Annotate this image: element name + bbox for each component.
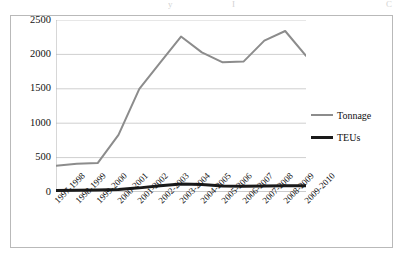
x-axis-labels: 1997-19981998-19991999-20002000-20012001…	[56, 192, 316, 252]
artifact-fragment-1: y	[168, 0, 179, 9]
line-swatch-black-icon	[311, 136, 333, 139]
legend-label-teus: TEUs	[337, 132, 360, 143]
axis-lines	[56, 20, 306, 192]
line-swatch-gray-icon	[311, 114, 333, 116]
artifact-fragment-2: I	[232, 0, 241, 9]
line-chart-svg	[56, 20, 306, 192]
y-tick-label-2500: 2500	[17, 15, 51, 26]
legend-label-tonnage: Tonnage	[337, 110, 371, 121]
y-tick-label-500: 500	[17, 152, 51, 163]
legend-entry-teus[interactable]: TEUs	[311, 126, 391, 148]
y-axis-labels: 05001000150020002500	[11, 20, 51, 192]
chart-legend: Tonnage TEUs	[311, 104, 391, 148]
y-tick-label-1500: 1500	[17, 83, 51, 94]
y-tick-label-2000: 2000	[17, 49, 51, 60]
legend-entry-tonnage[interactable]: Tonnage	[311, 104, 391, 126]
y-tick-label-1000: 1000	[17, 118, 51, 129]
scan-artifact-top-text: y I C	[0, 0, 403, 10]
y-tick-label-0: 0	[17, 187, 51, 198]
series-lines	[56, 31, 306, 190]
series-line-tonnage	[56, 31, 306, 166]
chart-frame: 05001000150020002500 1997-19981998-19991…	[10, 15, 393, 248]
gridlines	[56, 20, 306, 192]
plot-area	[56, 20, 306, 192]
artifact-fragment-3: C	[386, 0, 398, 9]
